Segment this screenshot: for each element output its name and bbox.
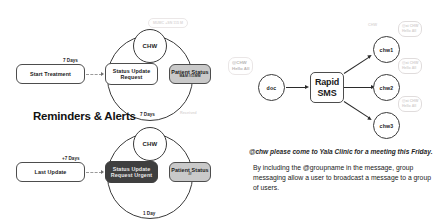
node-chw1-label: chw1	[380, 47, 394, 53]
edge-doc-to-hub-arrowhead	[305, 85, 309, 89]
flow-top-dashed-connector	[86, 74, 102, 75]
flow-top-received-label: Received	[180, 111, 197, 115]
node-status-update-request-urgent-line2: Request Urgent	[111, 172, 153, 178]
node-status-update-request-top-line2: Request	[121, 74, 143, 80]
edge-doc-to-hub	[286, 87, 306, 88]
flow-bottom-chw-circle: CHW	[133, 127, 167, 161]
recipient-message-1-line2: Hello All	[402, 29, 418, 34]
flow-bottom-edge-plus7days: +7 Days	[62, 156, 80, 161]
node-chw3[interactable]: chw3	[373, 112, 400, 139]
node-start-treatment[interactable]: Start Treatment	[16, 64, 85, 84]
node-patient-status-top[interactable]: Patient Status MAM //11MM	[169, 64, 211, 84]
node-status-update-request-top[interactable]: Status Update Request	[105, 63, 158, 85]
flow-top-arrowhead	[101, 72, 104, 76]
node-patient-status-bottom-sub: ///	[188, 173, 191, 177]
slide-canvas: MUMC +SN 115 M CHW Start Treatment 7 Day…	[0, 0, 439, 224]
recipient-message-2-line2: Hello All	[402, 66, 418, 71]
node-doc[interactable]: doc	[258, 74, 285, 101]
node-chw3-label: chw3	[380, 123, 394, 129]
flow-top-loop-label: 7 Days	[140, 112, 155, 117]
flow-bottom-loop-label: 1 Day	[143, 211, 155, 216]
flow-top-edge-7days: 7 Days	[63, 58, 78, 63]
flow-bottom-dashed-connector	[86, 172, 102, 173]
node-rapid-sms-line2: SMS	[318, 88, 337, 98]
caption-italic-line: @chw please come to Yala Clinic for a me…	[249, 148, 433, 155]
sender-message-line2: Hello All	[232, 66, 249, 72]
caption-body-text: By including the @groupname in the messa…	[253, 163, 437, 194]
edge-hub-to-chw1-arrowhead	[367, 53, 373, 59]
recipient-message-bubble-1: @at CHW Hello All	[398, 21, 422, 37]
flow-bottom-chw-label: CHW	[143, 141, 158, 147]
node-start-treatment-label: Start Treatment	[30, 71, 71, 77]
sender-message-bubble: @CHW Hello All	[228, 57, 253, 75]
edge-hub-to-chw2	[344, 87, 372, 88]
node-patient-status-top-sub: MAM //11MM	[179, 75, 200, 79]
node-last-update-label: Last Update	[35, 169, 67, 175]
sms-chw-watermark: CHW	[368, 23, 377, 27]
section-heading: Reminders & Alerts	[33, 110, 136, 122]
node-chw2[interactable]: chw2	[373, 74, 400, 101]
node-patient-status-bottom[interactable]: Patient Status ///	[169, 162, 211, 182]
edge-hub-to-chw3-arrowhead	[367, 116, 373, 122]
flow-bottom-arrowhead	[101, 170, 104, 174]
node-last-update[interactable]: Last Update	[16, 162, 85, 182]
node-rapid-sms-line1: Rapid	[315, 77, 339, 87]
node-chw1[interactable]: chw1	[373, 36, 400, 63]
node-rapid-sms-hub[interactable]: Rapid SMS	[310, 72, 344, 103]
flow-top-chw-label: CHW	[143, 43, 158, 49]
node-doc-label: doc	[267, 85, 277, 91]
recipient-message-bubble-2: @at CHW Hello All	[398, 58, 422, 74]
edge-hub-to-chw3	[344, 101, 370, 118]
recipient-message-3-line2: Hello All	[402, 104, 418, 109]
recipient-message-bubble-3: @at CHW Hello All	[398, 96, 422, 112]
node-status-update-request-urgent[interactable]: Status Update Request Urgent	[105, 161, 158, 183]
flow-top-chw-circle: CHW	[133, 29, 167, 63]
edge-hub-to-chw1	[344, 57, 370, 74]
node-chw2-label: chw2	[380, 85, 394, 91]
watermark-top-label: MUMC +SN 115 M	[148, 18, 188, 28]
